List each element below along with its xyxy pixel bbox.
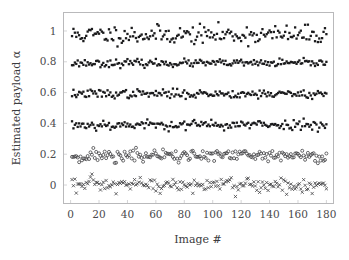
data-point xyxy=(235,157,238,160)
data-point xyxy=(109,59,111,61)
data-point xyxy=(190,62,192,64)
data-point xyxy=(287,124,289,126)
data-point xyxy=(231,62,233,64)
data-point xyxy=(176,88,178,90)
data-point xyxy=(261,125,263,127)
data-point xyxy=(105,157,108,160)
data-point xyxy=(103,187,106,190)
data-point xyxy=(311,192,314,195)
data-point xyxy=(250,61,252,63)
data-point xyxy=(263,122,265,124)
data-point xyxy=(136,40,138,42)
data-point xyxy=(298,95,300,97)
data-point xyxy=(210,62,212,64)
data-point xyxy=(284,119,286,121)
data-point xyxy=(294,126,296,128)
data-point xyxy=(230,31,232,33)
data-point xyxy=(99,66,101,68)
x-tick-label: 80 xyxy=(178,208,191,220)
data-point xyxy=(303,57,305,59)
data-point xyxy=(139,124,141,126)
data-point xyxy=(263,89,265,91)
data-point xyxy=(298,182,301,185)
data-point xyxy=(278,57,280,59)
y-axis-label-text: Estimated payload α xyxy=(10,50,23,165)
data-point xyxy=(177,161,180,164)
data-point xyxy=(75,96,77,98)
data-point xyxy=(91,28,93,30)
data-point xyxy=(233,39,235,41)
data-point xyxy=(128,63,130,65)
data-point xyxy=(277,63,279,65)
data-point xyxy=(119,67,121,69)
data-point xyxy=(204,121,206,123)
data-point xyxy=(86,155,89,158)
data-point xyxy=(295,95,297,97)
x-tick-label: 60 xyxy=(149,208,162,220)
data-point xyxy=(87,123,89,125)
data-point xyxy=(271,150,274,153)
data-point xyxy=(260,122,262,124)
data-point xyxy=(309,183,312,186)
data-point xyxy=(197,62,199,64)
data-point xyxy=(81,62,83,64)
data-point xyxy=(301,94,303,96)
x-axis-label: Image # xyxy=(174,233,222,246)
data-point xyxy=(300,91,302,93)
data-point xyxy=(72,28,74,30)
data-point xyxy=(136,151,139,154)
data-point xyxy=(193,179,196,182)
data-point xyxy=(229,124,231,126)
data-point xyxy=(214,90,216,92)
data-point xyxy=(153,149,156,152)
data-point xyxy=(257,180,260,183)
data-point xyxy=(155,38,157,40)
data-point xyxy=(118,122,120,124)
data-point xyxy=(201,183,204,186)
data-point xyxy=(105,179,108,182)
data-point xyxy=(114,26,116,28)
data-point xyxy=(102,62,104,64)
data-point xyxy=(173,95,175,97)
data-point xyxy=(247,45,249,47)
data-point xyxy=(192,26,194,28)
data-point xyxy=(96,96,98,98)
data-point xyxy=(71,95,73,97)
data-point xyxy=(302,178,305,181)
data-point xyxy=(207,159,210,162)
data-point xyxy=(104,92,106,94)
data-point xyxy=(106,124,108,126)
data-point xyxy=(115,126,117,128)
data-point xyxy=(153,62,155,64)
data-point xyxy=(78,161,81,164)
data-point xyxy=(265,181,268,184)
data-point xyxy=(276,36,278,38)
x-tick-label: 120 xyxy=(231,208,251,220)
data-point xyxy=(146,92,148,94)
data-point xyxy=(231,90,233,92)
data-point xyxy=(320,41,322,43)
data-point xyxy=(112,39,114,41)
data-point xyxy=(226,31,228,33)
x-tick-label: 0 xyxy=(67,208,74,220)
data-point xyxy=(300,30,302,32)
data-point xyxy=(236,59,238,61)
data-point xyxy=(284,180,287,183)
x-axis-label-text: Image # xyxy=(174,233,222,246)
data-point xyxy=(304,158,307,161)
tick-marks xyxy=(64,31,327,204)
data-point xyxy=(135,60,137,62)
data-point xyxy=(195,59,197,61)
data-point xyxy=(143,67,145,69)
data-point xyxy=(204,31,206,33)
data-point xyxy=(264,35,266,37)
data-point xyxy=(308,92,310,94)
data-point xyxy=(280,125,282,127)
data-point xyxy=(84,37,86,39)
data-point xyxy=(260,32,262,34)
data-point xyxy=(317,41,319,43)
data-point xyxy=(260,59,262,61)
data-point xyxy=(143,127,145,129)
data-point xyxy=(267,31,269,33)
data-point xyxy=(125,89,127,91)
